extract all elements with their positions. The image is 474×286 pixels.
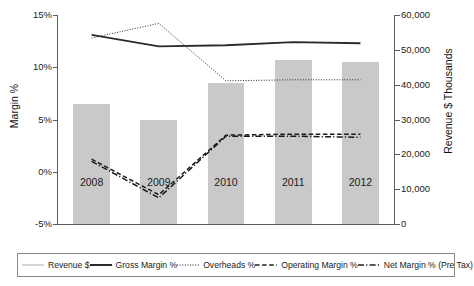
legend-item-revenue[interactable]: Revenue $ [22,260,90,270]
category-label-2012: 2012 [338,176,382,188]
secondary-y-tick-label: 40,000 [401,79,430,90]
secondary-y-tick-mark [395,224,400,225]
primary-y-tick-label: 5% [12,114,52,125]
primary-y-tick-label: 0% [12,166,52,177]
secondary-y-axis-title: Revenue $ Thousands [442,21,454,181]
plot-bottom-axis [57,224,395,225]
legend-label: Revenue $ [48,260,90,270]
bar-2011[interactable] [275,60,312,224]
bar-2012[interactable] [342,62,379,224]
secondary-y-tick-label: 50,000 [401,44,430,55]
dotted-swatch [177,260,199,270]
secondary-y-tick-label: 60,000 [401,9,430,20]
legend-label: Operating Margin % [281,260,357,270]
secondary-y-tick-label: 30,000 [401,114,430,125]
dash-dot-swatch [358,260,380,270]
thin-solid-swatch [22,260,44,270]
primary-y-tick-mark [53,224,58,225]
plot-area [58,15,394,224]
bar-2009[interactable] [140,120,177,224]
primary-y-tick-label: -5% [12,218,52,229]
primary-y-tick-label: 15% [12,9,52,20]
legend-item-gross-margin[interactable]: Gross Margin % [90,260,178,270]
category-label-2010: 2010 [204,176,248,188]
legend-item-operating-margin[interactable]: Operating Margin % [255,260,357,270]
category-label-2011: 2011 [271,176,315,188]
secondary-y-tick-mark [395,15,400,16]
secondary-y-tick-label: 20,000 [401,148,430,159]
secondary-y-tick-mark [395,50,400,51]
bar-2010[interactable] [208,83,245,224]
legend-label: Gross Margin % [116,260,178,270]
secondary-y-tick-mark [395,85,400,86]
legend-item-net-margin-pre-tax[interactable]: Net Margin % (Pre Tax) [358,260,473,270]
legend-label: Net Margin % (Pre Tax) [384,260,473,270]
category-label-2008: 2008 [70,176,114,188]
primary-y-tick-label: 10% [12,61,52,72]
dashed-swatch [255,260,277,270]
secondary-y-tick-mark [395,154,400,155]
secondary-y-tick-label: 10,000 [401,183,430,194]
thick-solid-swatch [90,260,112,270]
chart-legend[interactable]: Revenue $Gross Margin %Overheads %Operat… [17,253,455,277]
bar-2008[interactable] [73,104,110,224]
secondary-y-tick-label: 0 [401,218,406,229]
legend-item-overheads[interactable]: Overheads % [177,260,255,270]
secondary-y-tick-mark [395,189,400,190]
chart-root: Margin % Revenue $ Thousands 15%10%5%0%-… [0,0,474,286]
secondary-y-tick-mark [395,120,400,121]
category-label-2009: 2009 [137,176,181,188]
legend-label: Overheads % [203,260,255,270]
